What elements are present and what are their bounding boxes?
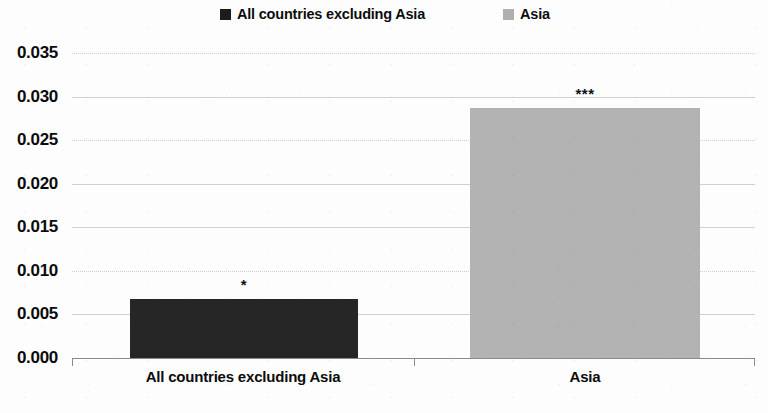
x-category-label-all-countries-excluding-asia: All countries excluding Asia bbox=[146, 368, 341, 385]
legend-entry-asia[interactable]: Asia bbox=[503, 4, 550, 24]
chart-figure: All countries excluding Asia Asia 0.035 … bbox=[0, 0, 768, 413]
gridline-0035 bbox=[72, 53, 755, 54]
y-tick-label-0020: 0.020 bbox=[17, 174, 58, 194]
bar-asia[interactable] bbox=[470, 108, 700, 358]
legend-entry-all-countries-excluding-asia[interactable]: All countries excluding Asia bbox=[220, 4, 425, 24]
legend-label-asia: Asia bbox=[520, 4, 550, 24]
legend-swatch-dark bbox=[220, 9, 231, 20]
y-tick-label-0025: 0.025 bbox=[17, 130, 58, 150]
y-tick-label-0005: 0.005 bbox=[17, 304, 58, 324]
y-tick-label-0035: 0.035 bbox=[17, 43, 58, 63]
legend-swatch-light bbox=[503, 9, 514, 20]
y-tick-label-0010: 0.010 bbox=[17, 261, 58, 281]
significance-marker-all-countries-excluding-asia: * bbox=[241, 277, 247, 292]
x-tick-right bbox=[754, 358, 755, 366]
bar-fill-light bbox=[470, 108, 700, 358]
legend-label-all-countries-excluding-asia: All countries excluding Asia bbox=[237, 4, 425, 24]
bar-fill-dark bbox=[130, 299, 358, 358]
x-tick-middle bbox=[414, 358, 415, 366]
chart-legend: All countries excluding Asia Asia bbox=[0, 2, 768, 28]
y-tick-label-0015: 0.015 bbox=[17, 217, 58, 237]
gridline-0030 bbox=[72, 97, 755, 98]
y-tick-label-0030: 0.030 bbox=[17, 87, 58, 107]
x-tick-left bbox=[72, 358, 73, 366]
y-tick-label-0000: 0.000 bbox=[17, 348, 58, 368]
bar-all-countries-excluding-asia[interactable] bbox=[130, 299, 358, 358]
x-axis: All countries excluding Asia Asia bbox=[72, 368, 755, 398]
plot-area: * *** bbox=[72, 53, 755, 358]
y-axis: 0.035 0.030 0.025 0.020 0.015 0.010 0.00… bbox=[0, 0, 72, 413]
x-category-label-asia: Asia bbox=[570, 368, 601, 385]
significance-marker-asia: *** bbox=[575, 86, 594, 101]
